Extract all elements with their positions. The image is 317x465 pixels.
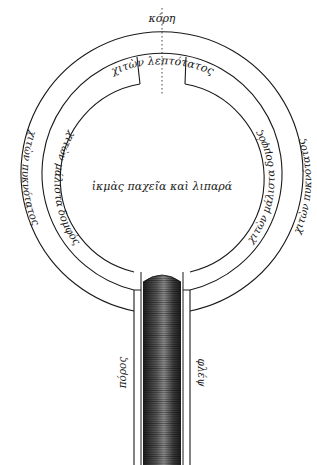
label-outer-right: χιτὼν πυκνότατος (290, 137, 313, 236)
label-center-humor: ἰκμὰς παχεῖα καὶ λιπαρά (92, 180, 233, 193)
label-tube-phleps: φλέψ (196, 359, 208, 388)
eye-diagram: κόρη χιτὼν λεπτότατος χιτὼν πυκνότατος χ… (0, 0, 317, 465)
label-outer-top: χιτὼν λεπτότατος (108, 54, 216, 78)
label-middle-right: χιτὼν μάλιστα δομφός (243, 128, 276, 245)
label-middle-left: χιτὼν μάλιστα δομφός (52, 129, 83, 247)
label-kore: κόρη (148, 12, 176, 25)
label-tube-poros: πόρος (116, 357, 128, 390)
nerve-cylinder (143, 275, 181, 465)
